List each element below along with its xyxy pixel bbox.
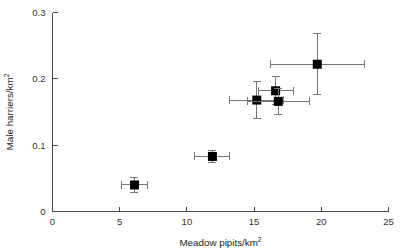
chart-figure: 051015202500.10.20.3 Meadow pipits/km2Ma…: [0, 0, 408, 252]
y-tick-label: 0.3: [32, 7, 45, 18]
x-tick-label: 5: [117, 216, 122, 227]
ticks-group: [53, 13, 389, 212]
data-marker: [313, 60, 322, 69]
x-axis-title: Meadow pipits/km2: [179, 236, 261, 248]
x-tick-label: 15: [249, 216, 260, 227]
y-tick-label: 0.2: [32, 73, 45, 84]
y-tick-label: 0: [40, 206, 45, 217]
x-tick-label: 20: [316, 216, 327, 227]
scatter-plot: 051015202500.10.20.3 Meadow pipits/km2Ma…: [0, 0, 408, 252]
tick-labels-group: 051015202500.10.20.3: [32, 7, 394, 227]
data-marker: [130, 180, 139, 189]
axis-titles-group: Meadow pipits/km2Male harriers/km2: [3, 73, 262, 248]
data-point: [270, 34, 364, 95]
axes-group: [53, 13, 389, 212]
data-points-group: [121, 34, 364, 193]
x-tick-label: 0: [50, 216, 55, 227]
data-marker: [208, 152, 217, 161]
axis-spine: [53, 13, 389, 212]
y-axis-title: Male harriers/km2: [3, 73, 15, 150]
data-marker: [252, 96, 261, 105]
data-point: [121, 178, 148, 193]
data-marker: [274, 97, 283, 106]
x-tick-label: 10: [182, 216, 193, 227]
y-tick-label: 0.1: [32, 140, 45, 151]
x-tick-label: 25: [383, 216, 394, 227]
data-point: [195, 150, 230, 162]
